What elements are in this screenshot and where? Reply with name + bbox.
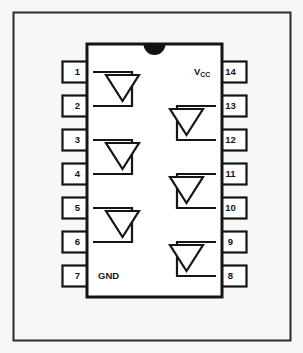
pin-label-12: 12 [215, 135, 246, 145]
vcc-subscript-text: CC [200, 71, 210, 78]
pin-label-1: 1 [62, 67, 93, 77]
pin-label-8: 8 [215, 271, 246, 281]
pin-label-2: 2 [62, 101, 93, 111]
ic-pinout-diagram: 1 2 3 4 5 6 7 14 13 12 11 10 9 8 VCC GND [0, 0, 303, 353]
pin-label-10: 10 [215, 203, 246, 213]
pin-label-13: 13 [215, 101, 246, 111]
pin-label-14: 14 [215, 67, 246, 77]
pin-label-4: 4 [62, 169, 93, 179]
gnd-label: GND [98, 271, 119, 281]
pin-label-6: 6 [62, 237, 93, 247]
diagram-canvas [0, 0, 303, 353]
pin-label-5: 5 [62, 203, 93, 213]
pin-label-11: 11 [215, 169, 246, 179]
pin-label-9: 9 [215, 237, 246, 247]
pin-label-3: 3 [62, 135, 93, 145]
vcc-label: VCC [194, 67, 210, 77]
ic-body [87, 44, 222, 297]
pin-label-7: 7 [62, 271, 93, 281]
